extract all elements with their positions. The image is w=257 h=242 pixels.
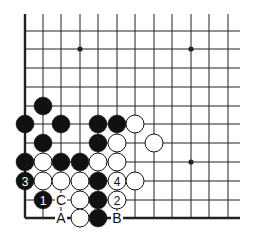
move-number: 1 — [40, 194, 47, 208]
white-stone — [126, 115, 144, 133]
white-stone — [34, 153, 52, 171]
white-stone — [34, 172, 52, 190]
move-number: 2 — [114, 194, 121, 208]
position-label-c: C — [56, 192, 66, 208]
white-stone — [71, 209, 89, 227]
black-stone — [89, 172, 107, 190]
position-label-b: B — [112, 210, 121, 226]
black-stone — [34, 134, 52, 152]
black-stone — [89, 134, 107, 152]
black-stone — [89, 191, 107, 209]
white-stone — [71, 172, 89, 190]
star-point — [188, 46, 193, 51]
black-stone — [16, 115, 34, 133]
white-stone — [71, 191, 89, 209]
white-stone — [52, 172, 70, 190]
white-stone — [145, 134, 163, 152]
white-stone — [108, 153, 126, 171]
black-stone — [16, 153, 34, 171]
black-stone — [89, 209, 107, 227]
go-board: 3412 CAB — [0, 0, 257, 242]
white-stone — [89, 153, 107, 171]
black-stone — [52, 115, 70, 133]
white-stone — [126, 172, 144, 190]
move-number: 3 — [22, 175, 29, 189]
white-stone — [108, 134, 126, 152]
move-number: 4 — [114, 175, 121, 189]
black-stone — [108, 115, 126, 133]
star-point — [77, 46, 82, 51]
black-stone — [71, 153, 89, 171]
black-stone — [52, 153, 70, 171]
black-stone — [34, 97, 52, 115]
black-stone — [89, 115, 107, 133]
star-point — [188, 159, 193, 164]
position-label-a: A — [56, 210, 66, 226]
